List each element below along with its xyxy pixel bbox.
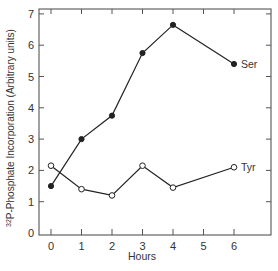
y-axis-label: 32P-Phosphate Incorporation (Arbitrary u… [5, 29, 16, 227]
y-tick-label: 0 [28, 227, 34, 239]
x-axis-label: Hours [128, 250, 156, 262]
data-point [140, 163, 146, 169]
data-point [140, 50, 145, 55]
y-tick-label: 3 [28, 133, 34, 145]
x-tick-label: 4 [170, 240, 176, 252]
line-chart: 01234567 0123456 SerTyr Hours 32P-Phosph… [0, 0, 278, 271]
x-tick-label: 1 [78, 240, 84, 252]
series-label: Ser [241, 58, 258, 70]
data-point [79, 137, 84, 142]
x-tick-label: 2 [109, 240, 115, 252]
data-point [170, 185, 176, 191]
y-axis-label-superscript: 32 [5, 219, 12, 227]
series-label: Tyr [241, 161, 256, 173]
series-ser: Ser [48, 22, 257, 188]
data-point [48, 183, 53, 188]
data-point [109, 113, 114, 118]
y-axis-ticks: 01234567 [28, 8, 271, 239]
y-tick-label: 1 [28, 196, 34, 208]
y-tick-label: 2 [28, 164, 34, 176]
data-point [170, 22, 175, 27]
y-tick-label: 6 [28, 39, 34, 51]
x-tick-label: 0 [48, 240, 54, 252]
x-axis-ticks: 0123456 [48, 9, 237, 252]
y-axis-label-main: P-Phosphate Incorporation (Arbitrary uni… [5, 29, 16, 219]
data-point [48, 163, 54, 169]
y-tick-label: 7 [28, 8, 34, 20]
data-point [231, 61, 236, 66]
series-tyr: Tyr [48, 161, 256, 198]
x-tick-label: 5 [200, 240, 206, 252]
series-group: SerTyr [48, 22, 258, 198]
y-tick-label: 5 [28, 71, 34, 83]
plot-frame [39, 9, 271, 235]
y-tick-label: 4 [28, 102, 34, 114]
x-tick-label: 6 [231, 240, 237, 252]
data-point [79, 186, 85, 192]
data-point [231, 164, 237, 170]
data-point [109, 193, 115, 199]
